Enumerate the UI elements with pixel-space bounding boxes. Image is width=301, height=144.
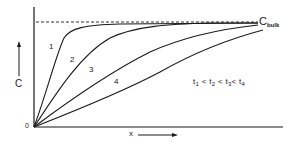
curve-3 xyxy=(34,25,258,127)
lt-1: < xyxy=(199,77,209,86)
lt-3: < xyxy=(232,77,240,86)
curve-label-1: 1 xyxy=(49,43,53,51)
concentration-profile-diagram xyxy=(0,0,301,144)
bulk-label-main: C xyxy=(259,15,267,27)
curve-label-4: 4 xyxy=(114,78,118,86)
curve-label-2: 2 xyxy=(70,56,74,64)
y-arrow-head-icon xyxy=(17,41,21,47)
lt-2: < xyxy=(215,77,225,86)
bulk-label-subscript: bulk xyxy=(267,22,279,28)
curve-1 xyxy=(34,23,258,127)
origin-label: 0 xyxy=(25,122,29,129)
x-axis-label: x xyxy=(129,130,133,138)
y-axis-label: C xyxy=(15,79,22,89)
curve-2 xyxy=(34,23,258,127)
t4-sub: 4 xyxy=(242,81,246,87)
x-arrow-head-icon xyxy=(172,133,178,137)
bulk-label: Cbulk xyxy=(259,16,279,28)
curve-label-3: 3 xyxy=(89,66,93,74)
time-inequality: t1 < t2 < t3< t4 xyxy=(193,78,245,87)
